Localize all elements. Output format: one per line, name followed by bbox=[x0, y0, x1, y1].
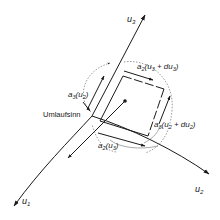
u3-axis-label: u3 bbox=[127, 14, 136, 25]
u2-axis-label: u2 bbox=[195, 184, 204, 195]
center-point bbox=[123, 99, 127, 103]
circulation-label: Umlaufsinn bbox=[43, 110, 81, 119]
leader-lines bbox=[83, 102, 160, 148]
coordinate-element-diagram: u3 u2 u1 a3(u2) a2(u3 + du3) a3(u2 + du2… bbox=[0, 0, 220, 220]
label-a2-u3: a2(u3) bbox=[98, 141, 119, 151]
u1-axis bbox=[14, 116, 92, 206]
label-a3-u2: a3(u2) bbox=[68, 90, 89, 100]
u1-axis-label: u1 bbox=[22, 196, 30, 207]
